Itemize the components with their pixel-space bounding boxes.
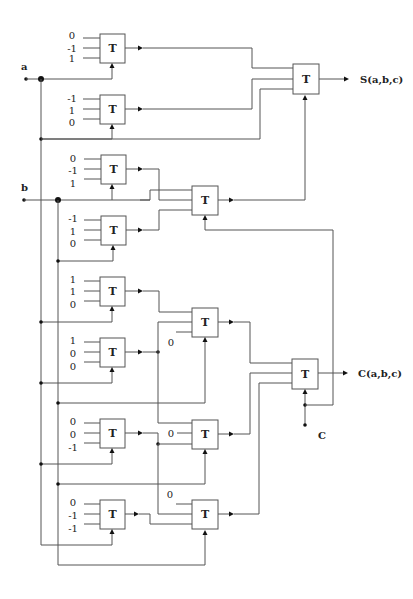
svg-text:T: T xyxy=(201,508,210,521)
svg-text:0: 0 xyxy=(168,428,174,439)
svg-text:0: 0 xyxy=(70,299,76,310)
svg-text:0: 0 xyxy=(70,153,76,164)
svg-text:1: 1 xyxy=(70,178,76,189)
output-carry-label: C(a,b,c) xyxy=(358,368,402,380)
svg-text:0: 0 xyxy=(70,497,76,508)
svg-text:0: 0 xyxy=(70,348,76,359)
gate-g4: -1 1 0 T xyxy=(56,213,143,263)
svg-text:1: 1 xyxy=(69,53,75,64)
input-b: b xyxy=(21,182,150,565)
gate-g3: 0 -1 1 T xyxy=(68,153,143,200)
svg-text:T: T xyxy=(302,73,311,86)
svg-text:-1: -1 xyxy=(68,523,78,534)
svg-text:1: 1 xyxy=(69,105,75,116)
input-a-label: a xyxy=(21,61,28,72)
svg-text:T: T xyxy=(108,508,117,521)
svg-text:T: T xyxy=(301,368,310,381)
svg-text:-1: -1 xyxy=(67,93,77,104)
gate-m4: 0 T xyxy=(58,383,292,565)
svg-text:-1: -1 xyxy=(68,442,78,453)
svg-text:1: 1 xyxy=(70,335,76,346)
input-a: a xyxy=(21,61,112,545)
svg-text:0: 0 xyxy=(167,489,173,500)
svg-text:0: 0 xyxy=(69,30,75,41)
svg-text:-1: -1 xyxy=(68,510,78,521)
svg-text:T: T xyxy=(108,427,117,440)
svg-text:0: 0 xyxy=(70,238,76,249)
input-b-label: b xyxy=(21,182,28,193)
ternary-full-adder-diagram: a b 0 -1 1 T -1 1 0 T xyxy=(0,0,413,599)
svg-text:T: T xyxy=(109,163,118,176)
svg-text:T: T xyxy=(109,224,118,237)
gate-final-sum: T S(a,b,c) xyxy=(41,48,403,139)
svg-text:T: T xyxy=(201,428,210,441)
gate-g1: 0 -1 1 T xyxy=(67,30,143,79)
gate-final-carry: T C(a,b,c) C xyxy=(292,359,402,441)
svg-text:0: 0 xyxy=(168,337,174,348)
svg-text:0: 0 xyxy=(70,361,76,372)
svg-text:T: T xyxy=(108,346,117,359)
svg-text:0: 0 xyxy=(69,117,75,128)
gate-g8: 0 -1 -1 T xyxy=(41,497,139,545)
svg-text:0: 0 xyxy=(70,416,76,427)
input-c-terminal xyxy=(303,423,307,427)
svg-text:0: 0 xyxy=(70,429,76,440)
svg-text:1: 1 xyxy=(70,274,76,285)
input-c-label: C xyxy=(318,430,326,441)
output-sum-label: S(a,b,c) xyxy=(360,74,403,86)
svg-text:T: T xyxy=(108,42,117,55)
svg-text:1: 1 xyxy=(70,286,76,297)
gate-g6: 1 0 0 T xyxy=(39,335,160,385)
svg-text:T: T xyxy=(201,316,210,329)
gate-g5: 1 1 0 T xyxy=(39,274,143,324)
gate-g2: -1 1 0 T xyxy=(39,93,143,141)
svg-text:T: T xyxy=(108,285,117,298)
gate-m3: 0 T xyxy=(56,352,292,486)
svg-text:-1: -1 xyxy=(68,165,78,176)
svg-text:T: T xyxy=(108,103,117,116)
gate-m2: 0 T xyxy=(56,291,292,405)
gate-g7: 0 0 -1 T xyxy=(39,416,160,466)
svg-text:-1: -1 xyxy=(68,213,78,224)
svg-text:T: T xyxy=(201,194,210,207)
svg-text:1: 1 xyxy=(70,226,76,237)
